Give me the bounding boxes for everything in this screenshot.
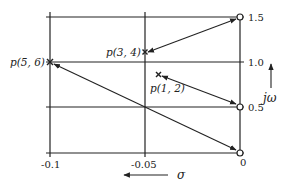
label-p56: p(5, 6) bbox=[10, 56, 45, 68]
x-tick-m005: -0.05 bbox=[131, 159, 157, 170]
y-tick-05: 0.5 bbox=[248, 102, 264, 113]
arrow-z15-p34 bbox=[148, 19, 236, 52]
grid bbox=[46, 12, 244, 157]
x-tick-m01: -0.1 bbox=[41, 159, 60, 170]
sigma-axis-indicator: σ bbox=[124, 168, 186, 182]
zero-marker-0 bbox=[237, 150, 243, 156]
label-p12: p(1, 2) bbox=[150, 82, 185, 94]
zero-marker-15 bbox=[237, 14, 243, 20]
sigma-label: σ bbox=[177, 168, 186, 182]
y-tick-15: 1.5 bbox=[248, 12, 264, 23]
y-tick-0: 0 bbox=[240, 157, 246, 168]
pole-zero-diagram: 1.5 1.0 0.5 0 -0.1 -0.05 p(5, 6) p(3, 4)… bbox=[0, 0, 287, 185]
pole-marker-p12 bbox=[156, 72, 161, 77]
jw-axis-indicator: jω bbox=[260, 64, 277, 105]
poles bbox=[47, 50, 161, 78]
label-p34: p(3, 4) bbox=[106, 46, 141, 58]
zero-marker-05 bbox=[237, 104, 243, 110]
jw-label: jω bbox=[260, 91, 277, 105]
y-tick-10: 1.0 bbox=[248, 57, 264, 68]
